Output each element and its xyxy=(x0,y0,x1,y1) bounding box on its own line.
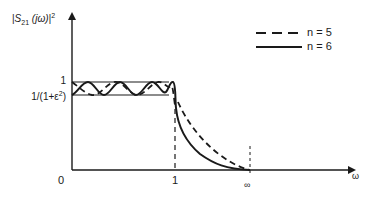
y-tick-1: 1 xyxy=(60,76,66,86)
x-axis-label: ω xyxy=(352,172,359,181)
x-tick-1: 1 xyxy=(172,175,178,186)
x-tick-infinity: ∞ xyxy=(244,181,250,190)
legend-label-n6: n = 6 xyxy=(307,41,332,52)
y-tick-ripple-floor: 1/(1+ε2) xyxy=(31,90,66,102)
legend-label-n5: n = 5 xyxy=(307,27,332,38)
x-tick-0: 0 xyxy=(58,175,64,186)
y-axis-label: |S21 (jω)|2 xyxy=(12,12,55,26)
